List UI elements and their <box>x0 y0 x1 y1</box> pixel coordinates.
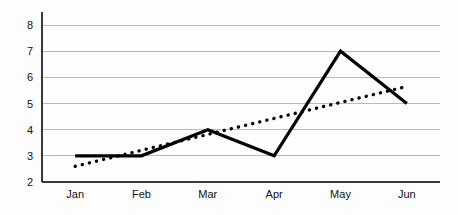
x-axis-tick-labels: JanFebMarAprMayJun <box>66 188 415 200</box>
y-axis-tick-label: 5 <box>27 98 33 110</box>
trendline <box>75 86 407 166</box>
y-axis-tick-label: 3 <box>27 150 33 162</box>
y-axis-tick-label: 8 <box>27 19 33 31</box>
x-axis-tick-label: May <box>330 188 351 200</box>
x-axis-tick-label: Jun <box>398 188 416 200</box>
x-axis-tick-label: Apr <box>266 188 283 200</box>
y-axis-tick-label: 6 <box>27 71 33 83</box>
y-axis-tick-label: 7 <box>27 45 33 57</box>
x-axis-tick-label: Jan <box>66 188 84 200</box>
y-axis-tick-label: 4 <box>27 124 33 136</box>
y-axis-tick-label: 2 <box>27 176 33 188</box>
gridlines <box>42 25 440 156</box>
x-axis-tick-label: Feb <box>132 188 151 200</box>
x-axis-tick-label: Mar <box>198 188 217 200</box>
line-chart: 2345678 JanFebMarAprMayJun <box>0 0 458 215</box>
chart-canvas: 2345678 JanFebMarAprMayJun <box>0 0 458 215</box>
y-axis-tick-labels: 2345678 <box>27 19 33 188</box>
